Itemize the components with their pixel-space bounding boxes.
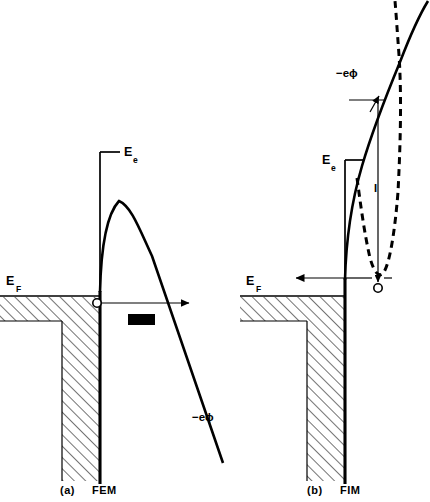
electron-energy-label-sub-a: e [133,155,138,165]
energy-band-diagram: E F E e −eϕ (a) FEM [0,0,430,502]
panel-tag-a: (a) [60,484,75,496]
work-function-label-a: −eϕ [192,411,214,423]
work-function-marker-b [349,96,384,112]
work-function-label-b: −eϕ [336,67,358,79]
metal-bulk-hatching-b [240,296,345,481]
panel-a-fem: E F E e −eϕ (a) FEM [0,145,223,496]
figure-container: E F E e −eϕ (a) FEM [0,0,430,502]
ionization-energy-label-b: I [374,182,377,194]
potential-barrier-curve-b [345,1,428,280]
fermi-label-b: E [246,274,254,288]
hatch-fill-b [240,297,345,481]
panel-b-fim: E F E e −eϕ I (b) FIM [240,1,428,496]
fermi-label-a: E [6,274,14,288]
panel-tag-b: (b) [307,484,323,496]
electron-energy-marker-b [345,160,364,290]
hatch-fill-a [0,297,100,481]
panel-name-a: FEM [92,484,117,496]
potential-barrier-curve-a [100,201,223,463]
panel-name-b: FIM [340,484,360,496]
fermi-label-sub-a: F [16,284,21,294]
electron-energy-label-b: E [322,153,330,167]
atom-potential-well-b [357,1,401,275]
electron-circle-a [93,299,101,307]
metal-bulk-hatching-a [0,296,100,481]
ion-circle-b [374,284,382,292]
electron-energy-label-a: E [124,145,132,159]
filled-state-bar-a [128,314,155,325]
electron-energy-label-sub-b: e [331,163,336,173]
electron-energy-marker-a [100,152,120,292]
fermi-label-sub-b: F [256,284,261,294]
